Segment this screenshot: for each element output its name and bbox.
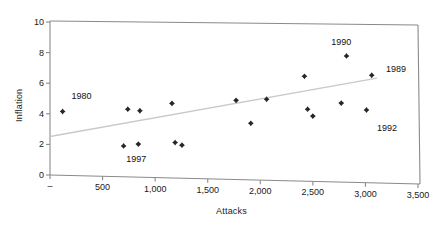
axis-frame <box>50 21 420 184</box>
scatter-chart: Inflation Attacks 0246810 –5001,0001,500… <box>0 0 435 230</box>
point-annotation: 1980 <box>72 91 92 101</box>
trend-line <box>50 78 377 136</box>
x-axis-tick-label: 1,000 <box>130 184 180 194</box>
data-point <box>172 140 178 146</box>
data-point <box>125 106 131 112</box>
data-point <box>369 72 375 78</box>
x-axis-tick-label: 3,000 <box>340 189 390 199</box>
data-point <box>137 108 143 114</box>
y-axis-tick-label: 8 <box>20 48 44 58</box>
data-point <box>179 142 185 148</box>
tick-marks <box>46 22 418 188</box>
data-point <box>364 107 370 113</box>
data-point <box>338 100 344 106</box>
point-annotation: 1990 <box>331 37 351 47</box>
x-axis-tick-label: 2,500 <box>288 187 338 197</box>
x-axis-title: Attacks <box>14 206 435 216</box>
x-axis-tick-label: 1,500 <box>183 185 233 195</box>
data-point <box>169 100 175 106</box>
y-axis-tick-label: 10 <box>20 17 44 27</box>
point-annotation: 1989 <box>386 64 406 74</box>
data-point <box>302 73 308 79</box>
x-axis-tick-label: 500 <box>78 182 128 192</box>
x-axis-tick-label: 2,000 <box>235 186 285 196</box>
x-axis-tick-label: – <box>25 181 75 191</box>
data-point <box>248 120 254 126</box>
y-axis-tick-label: 2 <box>20 139 44 149</box>
data-point <box>305 106 311 112</box>
data-point <box>60 109 66 115</box>
y-axis-tick-label: 6 <box>20 78 44 88</box>
data-point <box>310 113 316 119</box>
data-point <box>344 53 350 59</box>
y-axis-tick-label: 4 <box>20 109 44 119</box>
y-axis-tick-label: 0 <box>20 170 44 180</box>
point-annotation: 1997 <box>126 154 146 164</box>
data-points <box>60 53 375 149</box>
x-axis-tick-label: 3,500 <box>393 190 435 200</box>
point-annotation: 1992 <box>377 123 397 133</box>
data-point <box>135 141 141 147</box>
data-point <box>121 143 127 149</box>
